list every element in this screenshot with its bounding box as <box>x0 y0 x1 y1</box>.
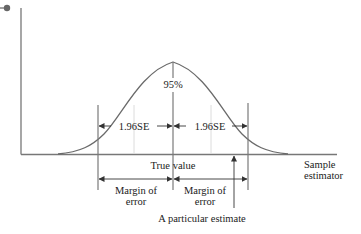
margin-right-label-2: error <box>195 196 216 207</box>
margin-right-label-1: Margin of <box>184 185 227 196</box>
margin-left-label-2: error <box>126 196 147 207</box>
se-left-label: 1.96SE <box>119 121 150 132</box>
sample-estimator-label-1: Sample <box>304 159 336 170</box>
confidence-interval-diagram: 95% 1.96SE 1.96SE True value Margin of e… <box>0 0 361 234</box>
percent-label: 95% <box>163 79 183 90</box>
margin-left-label-1: Margin of <box>115 185 158 196</box>
se-right-label: 1.96SE <box>195 121 226 132</box>
particular-estimate-label: A particular estimate <box>158 213 246 224</box>
corner-dot-icon <box>0 5 10 11</box>
sample-estimator-label-2: estimator <box>304 170 344 181</box>
true-value-label: True value <box>151 160 196 171</box>
